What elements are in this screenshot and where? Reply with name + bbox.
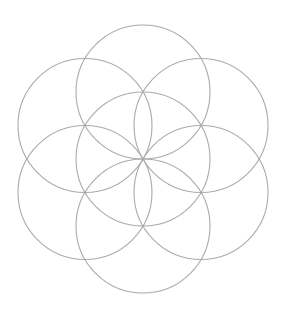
seed-of-life-diagram [0,0,284,314]
circle-group [18,25,268,293]
